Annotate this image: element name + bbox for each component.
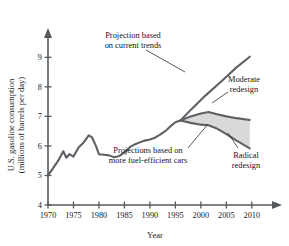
annotation-line: Radical [233, 151, 259, 160]
y-tick-label-9: 9 [38, 53, 42, 62]
y-tick-label-6: 6 [38, 142, 42, 151]
x-tick-label-2005: 2005 [218, 211, 235, 220]
x-tick-label-2000: 2000 [193, 211, 210, 220]
x-axis-arrowhead [272, 201, 282, 209]
annotation-line: on current trends [105, 41, 162, 50]
x-tick-label-1985: 1985 [116, 211, 133, 220]
y-tick-label-4: 4 [38, 201, 43, 210]
annotation-moderate-redesign: Moderateredesign [228, 75, 260, 94]
x-tick-label-2010: 2010 [244, 211, 261, 220]
y-axis-title-line: (millions of barrels per day) [16, 77, 26, 174]
x-axis-title: Year [147, 230, 163, 240]
annotation-line: Projection based [105, 31, 161, 40]
y-tick-label-5: 5 [38, 171, 42, 180]
tick-layer: 4567891970197519801985199019952000200520… [38, 53, 260, 220]
leader-moderate-redesign [212, 92, 228, 103]
annotation-radical-redesign: Radicalredesign [232, 151, 261, 170]
chart-figure: 4567891970197519801985199019952000200520… [0, 0, 289, 246]
y-axis-arrowhead [44, 28, 52, 38]
x-tick-label-1995: 1995 [167, 211, 184, 220]
x-tick-label-1970: 1970 [40, 211, 57, 220]
leader-projections-fuel-efficient [188, 124, 208, 148]
gasoline-consumption-chart: 4567891970197519801985199019952000200520… [0, 0, 289, 246]
annotation-line: redesign [232, 161, 261, 170]
leader-projection-current-trends [146, 50, 185, 72]
annotation-projections-fuel-efficient: Projections based onmore fuel-efficient … [109, 146, 187, 165]
annotation-line: more fuel-efficient cars [109, 156, 187, 165]
y-axis-title: U.S. gasoline consumption(millions of ba… [6, 77, 26, 174]
y-tick-label-7: 7 [38, 112, 42, 121]
y-tick-label-8: 8 [38, 83, 42, 92]
annotation-line: Moderate [228, 75, 260, 84]
annotation-line: redesign [230, 85, 259, 94]
x-tick-label-1990: 1990 [142, 211, 159, 220]
annotation-projection-current-trends: Projection basedon current trends [105, 31, 162, 50]
annotation-layer: Projection basedon current trendsModerat… [105, 31, 261, 170]
y-axis-title-line: U.S. gasoline consumption [6, 78, 16, 171]
annotation-line: Projections based on [113, 146, 183, 155]
x-tick-label-1980: 1980 [91, 211, 108, 220]
x-tick-label-1975: 1975 [65, 211, 82, 220]
